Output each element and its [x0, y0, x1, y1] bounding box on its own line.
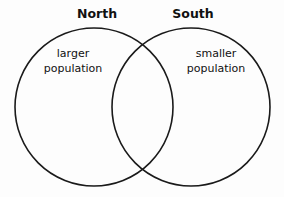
north-description: larger population	[38, 46, 108, 76]
south-title: South	[168, 6, 218, 21]
venn-circles	[0, 0, 284, 197]
north-description-line2: population	[38, 61, 108, 76]
south-description-line2: population	[181, 61, 251, 76]
north-description-line1: larger	[38, 46, 108, 61]
venn-diagram: North South larger population smaller po…	[0, 0, 284, 197]
south-description: smaller population	[181, 46, 251, 76]
south-description-line1: smaller	[181, 46, 251, 61]
north-title: North	[72, 6, 122, 21]
